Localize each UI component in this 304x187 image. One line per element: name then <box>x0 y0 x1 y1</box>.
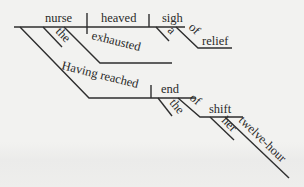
word-subject: nurse <box>45 11 73 25</box>
word-participle-object: end <box>161 82 180 96</box>
diagram-svg: nurse heaved sigh the exhausted Having r… <box>0 0 304 187</box>
word-end-preposition: of <box>187 91 205 109</box>
sentence-diagram: nurse heaved sigh the exhausted Having r… <box>0 0 304 187</box>
word-direct-object: sigh <box>162 11 184 25</box>
word-object-article: a <box>165 23 179 37</box>
word-object-prep-object: relief <box>202 34 229 48</box>
word-verb: heaved <box>101 11 137 25</box>
word-subject-adjective: exhausted <box>90 28 143 54</box>
word-shift-adjective: twelve-hour <box>236 113 290 166</box>
